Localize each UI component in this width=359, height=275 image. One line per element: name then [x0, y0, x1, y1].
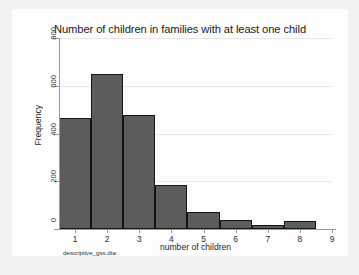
graph-region: Number of children in families with at l… [12, 9, 348, 256]
histogram-bar [59, 118, 91, 229]
y-axis-line [59, 38, 60, 229]
y-tick-label: 0 [50, 218, 58, 222]
y-tick-label: 800 [50, 27, 58, 40]
plot-inner: 0200400600800 123456789 [59, 38, 332, 229]
figure-canvas: Number of children in families with at l… [0, 0, 359, 275]
chart-title: Number of children in families with at l… [12, 23, 348, 35]
plot-area: 0200400600800 123456789 [59, 38, 332, 229]
gridline [59, 38, 332, 39]
x-axis-line [59, 229, 336, 230]
y-tick-label: 200 [50, 170, 58, 183]
histogram-bar [187, 212, 219, 229]
histogram-bar [123, 115, 155, 229]
histogram-bar [155, 185, 187, 229]
histogram-bar [284, 221, 316, 229]
histogram-bar [220, 220, 252, 229]
histogram-bar [91, 74, 123, 229]
y-tick-label: 600 [50, 75, 58, 88]
chart-note: descriptive_gss.dta [63, 249, 116, 256]
y-tick-label: 400 [50, 123, 58, 136]
y-axis-title: Frequency [33, 105, 43, 146]
